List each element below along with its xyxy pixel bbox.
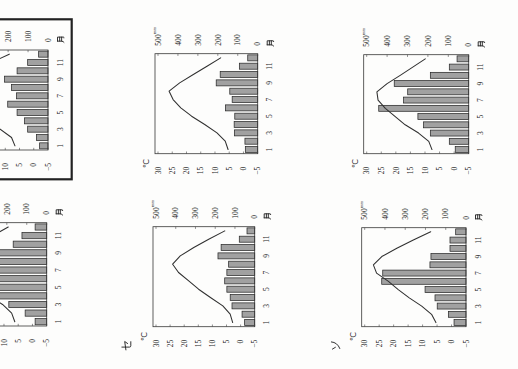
precipitation-bar-month-7 (383, 270, 466, 276)
precipitation-bar-month-4 (435, 295, 466, 301)
precipitation-bar-month-11 (239, 236, 254, 242)
temperature-tick-label: 15 (194, 339, 203, 347)
precipitation-bar-month-3 (234, 130, 257, 136)
month-tick-label: 7 (54, 268, 63, 272)
month-tick-label: 3 (474, 304, 483, 308)
temperature-tick-label: 10 (418, 339, 427, 347)
precipitation-tick-label: 500 (152, 207, 161, 219)
temperature-tick-label: 30 (152, 339, 161, 347)
precipitation-tick-label: 400 (383, 35, 392, 47)
exam-page-scan: 302520151050−5℃5004003002001000mm1357911… (0, 0, 518, 369)
precipitation-tick-label: 100 (24, 30, 33, 42)
precipitation-bar-month-10 (450, 245, 466, 251)
temperature-tick-label: 10 (211, 166, 220, 174)
precipitation-bar-month-2 (36, 135, 48, 141)
temperature-tick-label: 25 (168, 166, 177, 174)
precipitation-bar-month-4 (24, 118, 48, 124)
month-tick-label: 9 (54, 251, 63, 255)
precipitation-tick-label: 200 (4, 30, 13, 42)
precipitation-bar-month-11 (450, 237, 466, 243)
temperature-tick-label: 30 (360, 339, 369, 347)
temperature-tick-label: 25 (166, 339, 175, 347)
temperature-tick-label: 5 (15, 163, 24, 167)
precipitation-bar-month-7 (232, 97, 258, 103)
precipitation-tick-label: 200 (214, 34, 223, 46)
precipitation-tick-label: 200 (421, 208, 430, 220)
temperature-tick-label: −5 (42, 339, 51, 347)
precipitation-bar-month-6 (225, 278, 255, 284)
precipitation-bar-month-11 (449, 64, 468, 70)
precipitation-bar-month-1 (245, 320, 255, 326)
temperature-tick-label: 30 (362, 166, 371, 174)
precipitation-tick-label: 100 (22, 203, 31, 215)
precipitation-tick-label: 0 (253, 42, 262, 46)
month-tick-label: 1 (265, 147, 274, 151)
precipitation-unit-label: mm (359, 200, 364, 208)
precipitation-bar-month-7 (227, 270, 255, 276)
precipitation-tick-label: 500 (154, 34, 163, 46)
precipitation-tick-label: 0 (250, 215, 259, 219)
temperature-tick-label: −5 (44, 163, 53, 171)
temperature-tick-label: 20 (182, 166, 191, 174)
temperature-tick-label: 15 (406, 166, 415, 174)
precipitation-tick-label: 0 (44, 38, 53, 42)
precipitation-bar-month-6 (379, 105, 469, 111)
precipitation-bar-month-8 (230, 88, 258, 94)
temperature-tick-label: 25 (375, 339, 384, 347)
precipitation-bar-month-2 (25, 310, 47, 316)
temperature-tick-label: 5 (222, 339, 231, 343)
temperature-tick-label: 5 (225, 166, 234, 170)
month-tick-label: 5 (474, 287, 483, 291)
month-tick-label: 9 (56, 77, 65, 81)
precipitation-tick-label: 200 (3, 203, 12, 215)
temperature-tick-label: 20 (392, 166, 401, 174)
temperature-tick-label: 15 (196, 166, 205, 174)
temperature-tick-label: 20 (180, 339, 189, 347)
precipitation-bar-month-6 (382, 278, 466, 284)
month-tick-label: 3 (54, 302, 63, 306)
precipitation-bar-month-7 (16, 93, 48, 99)
temperature-tick-label: 10 (208, 339, 217, 347)
month-tick-label: 5 (262, 287, 271, 291)
temperature-tick-label: 5 (433, 339, 442, 343)
precipitation-bar-month-5 (227, 286, 255, 292)
precipitation-bar-month-10 (17, 68, 48, 74)
month-tick-label: 1 (54, 320, 63, 324)
month-tick-label: 11 (56, 59, 65, 67)
precipitation-bar-month-11 (239, 63, 257, 69)
month-tick-label: 7 (56, 94, 65, 98)
month-tick-label: 9 (262, 254, 271, 258)
precipitation-bar-month-7 (0, 267, 47, 273)
precipitation-bar-month-1 (35, 319, 47, 325)
temperature-tick-label: 5 (435, 166, 444, 170)
month-tick-label: 1 (262, 320, 271, 324)
month-tick-label: 3 (476, 131, 485, 135)
temperature-tick-label: 20 (389, 339, 398, 347)
temperature-tick-label: 15 (404, 339, 413, 347)
month-tick-label: 7 (262, 270, 271, 274)
precipitation-tick-label: 500 (360, 208, 369, 220)
precipitation-bar-month-9 (218, 253, 255, 259)
temperature-tick-label: 0 (28, 339, 37, 343)
precipitation-bar-month-8 (0, 258, 47, 264)
temperature-tick-label: 25 (377, 166, 386, 174)
temperature-unit-label: ℃ (351, 159, 360, 168)
temperature-tick-label: 0 (450, 166, 459, 170)
precipitation-bar-month-7 (404, 97, 469, 103)
precipitation-tick-label: 300 (191, 207, 200, 219)
precipitation-bar-month-1 (454, 320, 466, 326)
precipitation-bar-month-9 (5, 76, 48, 82)
precipitation-tick-label: 100 (444, 35, 453, 47)
precipitation-bar-month-11 (28, 60, 48, 66)
precipitation-bar-month-12 (39, 51, 48, 57)
month-tick-label: 5 (265, 114, 274, 118)
month-tick-label: 7 (476, 98, 485, 102)
precipitation-bar-month-6 (8, 101, 48, 107)
precipitation-bar-month-9 (0, 250, 47, 256)
temperature-tick-label: 10 (421, 166, 430, 174)
precipitation-bar-month-2 (448, 311, 466, 317)
temperature-tick-label: 30 (154, 166, 163, 174)
precipitation-bar-month-8 (12, 85, 48, 91)
precipitation-bar-month-9 (216, 80, 257, 86)
temperature-tick-label: 5 (14, 339, 23, 343)
